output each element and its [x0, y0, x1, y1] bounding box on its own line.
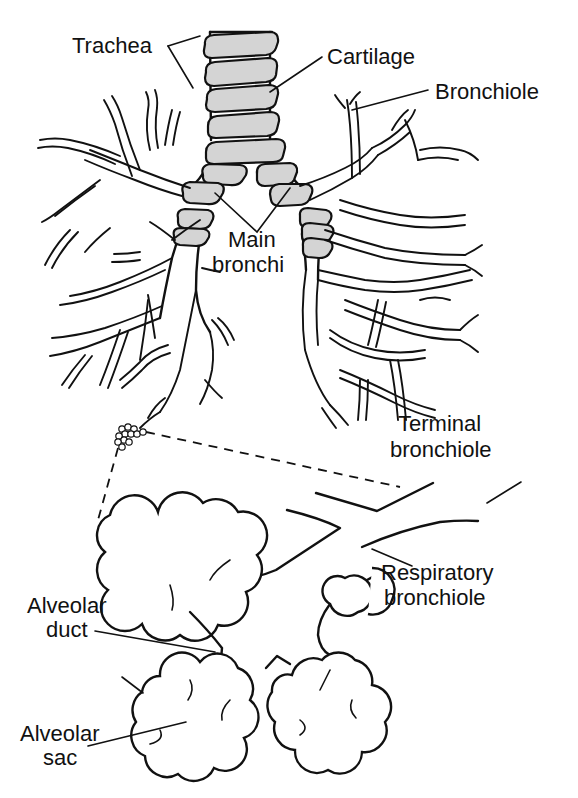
diagram-svg: Trachea Cartilage Bronchiole Main bronch… — [0, 0, 578, 798]
label-cartilage: Cartilage — [327, 44, 415, 69]
alveolar-sac-lower-left — [131, 653, 258, 781]
label-alveolar-sac-line1: Alveolar — [20, 721, 99, 746]
leader-bronchiole — [352, 90, 428, 110]
label-bronchiole: Bronchiole — [435, 79, 539, 104]
label-alveolar-sac-line2: sac — [43, 745, 77, 770]
leader-trachea-upper — [168, 36, 200, 46]
label-respiratory-bronchiole-line1: Respiratory — [381, 560, 493, 585]
label-main-bronchi-line1: Main — [228, 227, 276, 252]
label-respiratory-bronchiole-line2: bronchiole — [384, 585, 486, 610]
label-alveolar-duct-line1: Alveolar — [27, 593, 106, 618]
leader-trachea-lower — [168, 46, 193, 88]
leader-lines — [88, 36, 521, 746]
right-lung-bronchial-tree — [300, 92, 482, 428]
alveolar-sac-lower-right — [267, 653, 391, 774]
leader-cartilage — [270, 57, 322, 92]
cartilage-rings — [204, 32, 285, 164]
leader-alveolar-sac-upper — [122, 677, 143, 693]
left-lung-bronchial-tree — [38, 90, 234, 428]
alveolar-sac-upper — [97, 492, 267, 640]
respiratory-tree-diagram: Trachea Cartilage Bronchiole Main bronch… — [0, 0, 578, 798]
label-trachea: Trachea — [72, 33, 153, 58]
label-alveolar-duct-line2: duct — [46, 617, 88, 642]
label-main-bronchi-line2: bronchi — [212, 252, 284, 277]
leader-terminal-bronchiole — [487, 482, 521, 503]
label-terminal-bronchiole-line1: Terminal — [398, 411, 481, 436]
label-terminal-bronchiole-line2: bronchiole — [390, 437, 492, 462]
trachea — [204, 32, 285, 164]
